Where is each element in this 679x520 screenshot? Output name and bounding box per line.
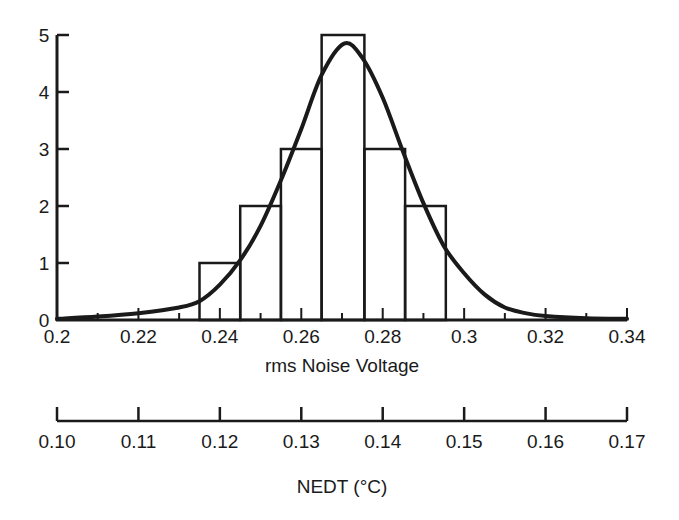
nedt-tick-label: 0.13 xyxy=(283,431,320,452)
nedt-tick-label: 0.12 xyxy=(201,431,238,452)
y-tick-label: 5 xyxy=(39,25,50,46)
x-tick-label: 0.28 xyxy=(364,326,401,347)
x-tick-label: 0.26 xyxy=(283,326,320,347)
nedt-tick-label: 0.15 xyxy=(446,431,483,452)
nedt-tick-label: 0.16 xyxy=(527,431,564,452)
y-tick-label: 3 xyxy=(39,139,50,160)
y-tick-label: 1 xyxy=(39,253,50,274)
x-tick-label: 0.24 xyxy=(201,326,238,347)
x-tick-label: 0.2 xyxy=(44,326,70,347)
nedt-tick-label: 0.10 xyxy=(39,431,76,452)
y-tick-label: 4 xyxy=(39,82,50,103)
nedt-axis-title: NEDT (°C) xyxy=(297,476,388,497)
x-tick-label: 0.22 xyxy=(120,326,157,347)
nedt-tick-label: 0.14 xyxy=(364,431,401,452)
histogram-bar xyxy=(405,206,446,320)
x-axis-nedt: 0.100.110.120.130.140.150.160.17 xyxy=(39,407,646,452)
normal-fit-curve xyxy=(57,43,627,319)
nedt-tick-label: 0.11 xyxy=(121,431,157,452)
x-axis-title: rms Noise Voltage xyxy=(265,355,419,376)
noise-histogram-chart: 012345 0.20.220.240.260.280.30.320.34 rm… xyxy=(0,0,679,520)
histogram-bar xyxy=(281,149,322,320)
nedt-tick-label: 0.17 xyxy=(609,431,646,452)
x-tick-label: 0.34 xyxy=(609,326,646,347)
histogram-bar xyxy=(364,149,405,320)
y-axis: 012345 xyxy=(39,25,69,331)
y-tick-label: 2 xyxy=(39,196,50,217)
x-tick-label: 0.32 xyxy=(527,326,564,347)
histogram-bar xyxy=(322,35,365,320)
x-tick-label: 0.3 xyxy=(451,326,477,347)
histogram-bars xyxy=(200,35,446,320)
